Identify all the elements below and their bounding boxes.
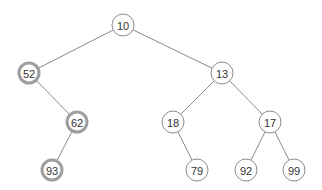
node-label: 13 xyxy=(216,68,228,80)
node-label: 79 xyxy=(191,165,203,177)
edge-n17-n99 xyxy=(275,132,289,160)
edge-n62-n93 xyxy=(57,132,72,160)
tree-node-17: 17 xyxy=(259,111,281,133)
node-label: 18 xyxy=(167,117,179,129)
tree-node-10: 10 xyxy=(112,14,134,36)
node-label: 10 xyxy=(117,20,129,32)
node-label: 99 xyxy=(288,165,300,177)
edge-n10-n13 xyxy=(133,30,212,68)
tree-node-13: 13 xyxy=(211,62,233,84)
tree-node-93: 93 xyxy=(42,160,62,180)
node-label: 92 xyxy=(240,165,252,177)
node-label: 17 xyxy=(264,117,276,129)
nodes-layer: 10521362181793799299 xyxy=(19,14,305,181)
tree-node-18: 18 xyxy=(162,111,184,133)
tree-node-92: 92 xyxy=(235,159,257,181)
edge-n10-n52 xyxy=(39,30,113,68)
edge-n18-n79 xyxy=(178,132,192,160)
tree-node-62: 62 xyxy=(67,112,87,132)
edge-n17-n92 xyxy=(251,132,265,160)
tree-diagram: 10521362181793799299 xyxy=(0,0,322,190)
edge-n13-n18 xyxy=(181,81,214,114)
node-label: 93 xyxy=(46,165,58,177)
edge-n52-n62 xyxy=(37,81,70,114)
tree-node-99: 99 xyxy=(283,159,305,181)
edge-n13-n17 xyxy=(230,81,263,114)
tree-node-79: 79 xyxy=(186,159,208,181)
node-label: 62 xyxy=(71,117,83,129)
edges-layer xyxy=(37,30,289,160)
node-label: 52 xyxy=(23,68,35,80)
tree-canvas: 10521362181793799299 xyxy=(0,0,322,190)
tree-node-52: 52 xyxy=(19,63,39,83)
